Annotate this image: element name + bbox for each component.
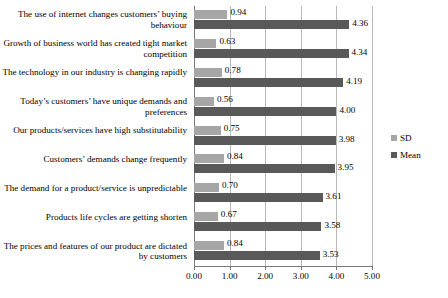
gridline-5.00 — [372, 6, 373, 266]
bar-value-mean: 4.34 — [352, 48, 368, 57]
bar-mean — [194, 136, 336, 145]
bar-sd — [194, 183, 219, 192]
bar-chart: The use of internet changes customers’ b… — [0, 0, 448, 298]
bar-group: 0.634.34 — [194, 35, 372, 64]
bar-mean — [194, 164, 335, 173]
category-label: Customers’ demands change frequently — [0, 154, 190, 165]
legend-entry[interactable]: Mean — [391, 148, 446, 162]
category-label: Today’s customers’ have unique demands a… — [0, 96, 190, 117]
bar-value-sd: 0.78 — [225, 66, 241, 75]
bar-group: 0.784.19 — [194, 64, 372, 93]
chart-legend: SDMean — [391, 131, 446, 165]
bar-sd — [194, 97, 214, 106]
category-label: The technology in our industry is changi… — [0, 67, 190, 78]
bar-value-sd: 0.75 — [224, 124, 240, 133]
tickmark-5.00 — [372, 266, 373, 270]
x-tick-label: 5.00 — [364, 271, 380, 282]
tickmark-0.00 — [194, 266, 195, 270]
category-label: Products life cycles are getting shorten — [0, 212, 190, 223]
tickmark-3.00 — [301, 266, 302, 270]
x-tick-label: 2.00 — [257, 271, 273, 282]
bar-sd — [194, 126, 221, 135]
bar-mean — [194, 78, 343, 87]
legend-label: Mean — [400, 150, 421, 160]
bar-value-sd: 0.84 — [227, 239, 243, 248]
x-tick-label: 4.00 — [328, 271, 344, 282]
x-axis-tick-labels: 0.001.002.003.004.005.00 — [194, 271, 372, 285]
bar-value-sd: 0.70 — [222, 181, 238, 190]
bar-mean — [194, 20, 349, 29]
bar-value-mean: 4.19 — [346, 77, 362, 86]
bar-value-mean: 3.61 — [326, 192, 342, 201]
bar-group: 0.753.98 — [194, 122, 372, 151]
tickmark-1.00 — [230, 266, 231, 270]
plot-area: 0.944.360.634.340.784.190.564.000.753.98… — [194, 6, 372, 266]
bar-value-mean: 4.36 — [352, 19, 368, 28]
bar-sd — [194, 241, 224, 250]
category-label: The use of internet changes customers’ b… — [0, 9, 190, 30]
category-label: The demand for a product/service is unpr… — [0, 183, 190, 194]
bar-mean — [194, 251, 320, 260]
bar-value-mean: 3.95 — [338, 163, 354, 172]
category-label: Our products/services have high substitu… — [0, 125, 190, 136]
bar-sd — [194, 10, 227, 19]
bar-sd — [194, 154, 224, 163]
category-label: Growth of business world has created tig… — [0, 38, 190, 59]
bar-group: 0.843.53 — [194, 237, 372, 266]
bar-value-sd: 0.67 — [221, 210, 237, 219]
x-axis-line — [194, 266, 372, 267]
bar-group: 0.673.58 — [194, 208, 372, 237]
bar-sd — [194, 212, 218, 221]
bar-group: 0.843.95 — [194, 150, 372, 179]
bar-mean — [194, 193, 323, 202]
legend-swatch-icon — [391, 152, 397, 158]
bar-value-sd: 0.84 — [227, 152, 243, 161]
legend-label: SD — [400, 133, 412, 143]
bar-sd — [194, 68, 222, 77]
bar-value-sd: 0.94 — [230, 8, 246, 17]
bar-value-mean: 3.53 — [323, 250, 339, 259]
legend-entry[interactable]: SD — [391, 131, 446, 145]
bar-value-mean: 3.98 — [339, 135, 355, 144]
x-tick-label: 1.00 — [222, 271, 238, 282]
bar-value-sd: 0.56 — [217, 95, 233, 104]
bar-mean — [194, 49, 349, 58]
legend-swatch-icon — [391, 135, 397, 141]
bar-group: 0.564.00 — [194, 93, 372, 122]
category-label: The prices and features of our product a… — [0, 241, 190, 262]
bar-value-mean: 4.00 — [339, 106, 355, 115]
bar-mean — [194, 107, 336, 116]
category-axis-labels: The use of internet changes customers’ b… — [0, 6, 190, 266]
x-tick-label: 3.00 — [293, 271, 309, 282]
bar-mean — [194, 222, 321, 231]
bar-sd — [194, 39, 216, 48]
bar-group: 0.703.61 — [194, 179, 372, 208]
tickmark-4.00 — [336, 266, 337, 270]
bar-value-sd: 0.63 — [219, 37, 235, 46]
tickmark-2.00 — [265, 266, 266, 270]
bar-value-mean: 3.58 — [324, 221, 340, 230]
bar-group: 0.944.36 — [194, 6, 372, 35]
x-tick-label: 0.00 — [186, 271, 202, 282]
